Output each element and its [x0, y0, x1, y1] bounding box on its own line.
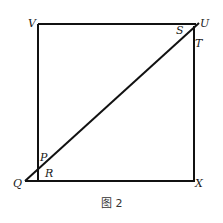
- diagonal-QU: [25, 23, 199, 181]
- label-S: S: [176, 24, 184, 37]
- label-U: U: [200, 17, 210, 30]
- label-T: T: [195, 37, 204, 50]
- label-P: P: [39, 151, 48, 164]
- figure-caption: 图 2: [101, 197, 123, 210]
- label-V: V: [28, 17, 37, 30]
- label-R: R: [44, 167, 53, 180]
- geometry-figure: V U S T P R Q X 图 2: [0, 0, 223, 223]
- label-Q: Q: [13, 177, 22, 190]
- label-X: X: [194, 177, 204, 190]
